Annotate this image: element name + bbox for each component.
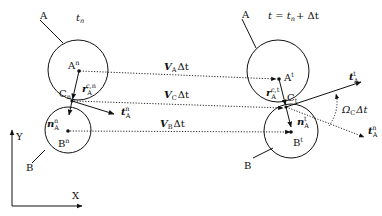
r-vector-label-left: rAc,n (82, 82, 96, 97)
vc-displacement-arrow (74, 101, 283, 108)
n-vector-label-right: nAt (297, 115, 309, 130)
body-b-leader-right (253, 148, 273, 158)
n-vector-label-left: nAn (47, 117, 59, 132)
body-b-label-left: B (26, 162, 33, 173)
contact-label-left: Cn (59, 88, 71, 101)
body-b-leader-left (32, 150, 45, 163)
contact-kinematics-diagram: A B tn An Bn Cn rAc,n nAn tAn VAΔt VCΔt … (0, 0, 382, 216)
right-state: A B t = tn+ Δt At Bt Ct rAc,t nAt tAt tA… (241, 9, 378, 171)
contact-label-right: Ct (287, 92, 298, 105)
x-axis-label: X (72, 190, 80, 201)
r-vector-left (73, 71, 79, 99)
t-vector-label-left: tAn (121, 105, 131, 120)
rotation-label: ΩCΔt (341, 104, 369, 117)
va-displacement-label: VAΔt (164, 61, 189, 74)
rotation-arc (329, 94, 337, 126)
left-state: A B tn An Bn Cn rAc,n nAn tAn (26, 10, 131, 173)
t-vector-left (72, 101, 114, 114)
time-label-right: t = tn+ Δt (268, 10, 319, 23)
center-a-label-right: At (283, 71, 294, 83)
t-vector-new-label: tAt (349, 70, 359, 85)
vb-displacement-arrow (70, 131, 290, 132)
body-a-leader-right (242, 19, 256, 48)
time-label-left: tn (76, 12, 84, 25)
center-b-label-right: Bt (293, 136, 303, 148)
center-a-label-left: An (67, 59, 79, 71)
body-b-label-right: B (244, 160, 251, 171)
coordinate-axes: Y X (12, 130, 82, 206)
center-b-dot-left (66, 129, 70, 133)
y-axis-label: Y (15, 131, 23, 142)
vb-displacement-label: VBΔt (160, 118, 185, 131)
n-vector-left (69, 101, 72, 115)
displacement-arrows: VAΔt VCΔt VBΔt (70, 61, 290, 132)
r-vector-label-right: rAc,t (266, 86, 280, 101)
vc-displacement-label: VCΔt (164, 89, 189, 102)
body-a-label-right: A (241, 9, 250, 20)
body-a-label-left: A (39, 10, 48, 21)
n-vector-right (286, 107, 291, 127)
center-b-label-left: Bn (58, 137, 70, 149)
body-a-leader-left (40, 20, 63, 43)
t-vector-old-label: tAn (368, 124, 378, 139)
center-b-dot-right (289, 130, 293, 134)
